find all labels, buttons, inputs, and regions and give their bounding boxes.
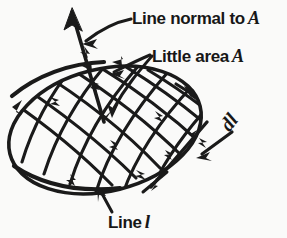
diagram-canvas bbox=[0, 0, 287, 238]
symbol-area-a: A bbox=[229, 46, 244, 66]
physics-diagram-stokes-surface: Line normal toA Little areaA Linel dl bbox=[0, 0, 287, 238]
label-little-area-a: Little areaA bbox=[152, 47, 244, 65]
label-line-l-text: Line bbox=[108, 213, 142, 232]
label-line-normal-to-a: Line normal toA bbox=[132, 9, 260, 27]
leader-dl bbox=[196, 132, 232, 161]
label-little-area-text: Little area bbox=[152, 47, 229, 66]
label-line-normal-text: Line normal to bbox=[132, 9, 245, 28]
symbol-area-a-normal: A bbox=[245, 8, 260, 28]
symbol-line-l: l bbox=[142, 211, 150, 232]
leader-line-normal bbox=[82, 19, 131, 49]
label-line-l: Linel bbox=[108, 212, 150, 231]
dl-tangent-segment bbox=[143, 122, 207, 192]
